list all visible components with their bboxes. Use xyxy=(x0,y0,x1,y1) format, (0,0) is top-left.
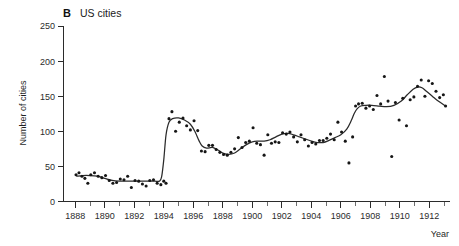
x-tick-label: 1900 xyxy=(242,211,262,221)
x-tick-label: 1902 xyxy=(272,211,292,221)
data-point xyxy=(372,108,375,111)
data-point xyxy=(204,150,207,153)
data-point xyxy=(423,95,426,98)
x-tick-label: 1912 xyxy=(419,211,439,221)
data-point xyxy=(148,179,151,182)
data-point xyxy=(379,102,382,105)
data-point xyxy=(364,107,367,110)
data-point xyxy=(398,119,401,122)
data-point xyxy=(296,140,299,143)
data-point xyxy=(329,133,332,136)
data-point xyxy=(240,146,243,149)
data-point xyxy=(292,135,295,138)
data-point xyxy=(115,181,118,184)
data-point xyxy=(100,176,103,179)
data-point xyxy=(263,154,266,157)
data-point xyxy=(174,130,177,133)
data-point xyxy=(340,130,343,133)
data-point xyxy=(145,185,148,188)
data-point xyxy=(164,182,167,185)
data-point xyxy=(83,177,86,180)
x-axis-title: Year xyxy=(431,229,449,239)
data-point xyxy=(130,186,133,189)
data-point xyxy=(383,75,386,78)
data-point xyxy=(270,142,273,145)
data-point xyxy=(368,104,371,107)
data-point xyxy=(152,178,155,181)
data-point xyxy=(412,95,415,98)
data-point xyxy=(119,177,122,180)
data-point xyxy=(322,139,325,142)
data-point xyxy=(77,171,80,174)
data-point xyxy=(281,131,284,134)
data-point xyxy=(108,179,111,182)
data-point xyxy=(137,180,140,183)
x-tick-label: 1906 xyxy=(331,211,351,221)
y-tick-label: 200 xyxy=(40,57,55,67)
y-tick-label: 0 xyxy=(50,197,55,207)
panel-title: US cities xyxy=(80,7,121,19)
data-point xyxy=(134,179,137,182)
data-point xyxy=(357,102,360,105)
data-point xyxy=(307,144,310,147)
data-point xyxy=(196,129,199,132)
y-tick-label: 100 xyxy=(40,127,55,137)
chart-background xyxy=(0,0,459,246)
data-point xyxy=(390,155,393,158)
x-tick-label: 1898 xyxy=(213,211,233,221)
us-cities-scatter-chart: B US cities 050100150200250 Number of ci… xyxy=(0,0,459,246)
data-point xyxy=(351,135,354,138)
data-point xyxy=(170,110,173,113)
data-point xyxy=(222,153,225,156)
data-point xyxy=(226,154,229,157)
y-tick-label: 150 xyxy=(40,92,55,102)
data-point xyxy=(401,97,404,100)
data-point xyxy=(288,130,291,133)
x-tick-label: 1890 xyxy=(95,211,115,221)
data-point xyxy=(420,79,423,82)
data-point xyxy=(111,182,114,185)
data-point xyxy=(311,141,314,144)
data-point xyxy=(438,96,441,99)
data-point xyxy=(193,119,196,122)
x-tick-label: 1910 xyxy=(390,211,410,221)
data-point xyxy=(442,93,445,96)
y-axis-title: Number of cities xyxy=(18,80,28,146)
data-point xyxy=(159,183,162,186)
data-point xyxy=(434,90,437,93)
data-point xyxy=(386,100,389,103)
x-tick-label: 1904 xyxy=(301,211,321,221)
data-point xyxy=(189,128,192,131)
data-point xyxy=(325,137,328,140)
data-point xyxy=(354,104,357,107)
data-point xyxy=(285,133,288,136)
data-point xyxy=(344,140,347,143)
data-point xyxy=(394,101,397,104)
data-point xyxy=(93,171,96,174)
data-point xyxy=(156,182,159,185)
data-point xyxy=(255,142,258,145)
data-point xyxy=(299,133,302,136)
data-point xyxy=(167,117,170,120)
data-point xyxy=(104,174,107,177)
data-point xyxy=(89,173,92,176)
data-point xyxy=(444,104,447,107)
data-point xyxy=(333,138,336,141)
data-point xyxy=(318,139,321,142)
panel-letter: B xyxy=(63,7,71,19)
data-point xyxy=(80,175,83,178)
x-tick-label: 1888 xyxy=(65,211,85,221)
data-point xyxy=(185,124,188,127)
data-point xyxy=(252,126,255,129)
data-point xyxy=(266,133,269,136)
data-point xyxy=(126,175,129,178)
data-point xyxy=(248,140,251,143)
data-point xyxy=(86,182,89,185)
data-point xyxy=(215,148,218,151)
data-point xyxy=(427,79,430,82)
data-point xyxy=(122,178,125,181)
data-point xyxy=(74,173,77,176)
data-point xyxy=(207,144,210,147)
y-tick-label: 250 xyxy=(40,21,55,31)
data-point xyxy=(409,98,412,101)
